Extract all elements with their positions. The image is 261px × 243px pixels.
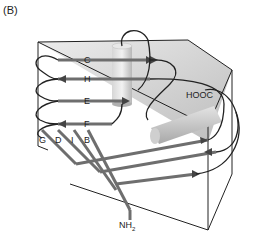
label-strand-c: C	[84, 55, 91, 65]
label-c-terminus: HOOC	[186, 90, 214, 100]
label-strand-d: D	[55, 135, 62, 145]
label-strand-g: G	[39, 135, 46, 145]
label-strand-e: E	[84, 96, 90, 106]
label-strand-i: I	[71, 135, 74, 145]
panel-label: (B)	[3, 4, 18, 16]
label-strand-f: F	[84, 119, 90, 129]
protein-topology-diagram: (B)	[0, 0, 261, 243]
label-n-terminus: NH2	[119, 220, 136, 232]
label-strand-h: H	[84, 74, 91, 84]
label-strand-b: B	[84, 135, 90, 145]
